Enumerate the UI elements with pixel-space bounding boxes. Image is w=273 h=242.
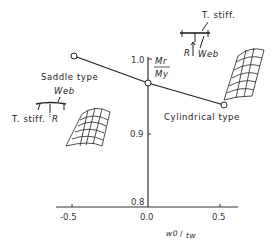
saddle-panel-icon [66, 108, 110, 146]
svg-text:T. stiff.: T. stiff. [201, 10, 235, 20]
y-tick-label: 0.9 [130, 129, 144, 139]
svg-text:R: R [184, 48, 191, 58]
data-point [71, 53, 77, 59]
svg-text:T. stiff.: T. stiff. [11, 114, 45, 124]
y-tick-label: 0.8 [131, 197, 145, 207]
x-label-den: tw [186, 231, 197, 240]
cylindrical-section-icon: T. stiff. R Web [180, 10, 235, 59]
svg-text:Web: Web [198, 49, 219, 59]
cylindrical-panel-icon [224, 48, 264, 100]
saddle-type-label: Saddle type [41, 72, 98, 82]
x-label-slash: / [180, 229, 183, 238]
y-label-num: Mr [155, 56, 167, 66]
x-tick-label: 0.0 [140, 212, 154, 222]
saddle-section-icon: Web T. stiff. R [11, 86, 75, 124]
chart: -0.5 0.0 0.5 1.0 0.9 0.8 Mr My w0 / tw S… [0, 0, 273, 242]
svg-text:Web: Web [54, 86, 75, 96]
cylindrical-type-label: Cylindrical type [164, 112, 240, 122]
data-point [221, 102, 227, 108]
x-tick-label: -0.5 [60, 212, 77, 222]
y-label-den: My [155, 69, 169, 79]
y-tick-label: 1.0 [131, 55, 145, 65]
data-point [145, 80, 151, 86]
x-label-num: w0 [166, 229, 178, 238]
x-tick-label: 0.5 [212, 212, 226, 222]
svg-text:R: R [52, 114, 59, 124]
